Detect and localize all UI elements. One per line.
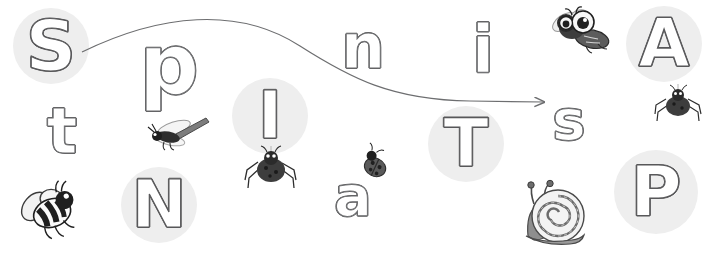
letter-i-capital: I: [232, 78, 308, 154]
bumblebee-icon: [16, 180, 82, 246]
letter-i-lower: i: [468, 18, 498, 82]
spider-small-icon: [654, 84, 706, 134]
letter-p-lower: p: [144, 20, 194, 110]
letter-s-lower: s: [548, 94, 590, 146]
fly-icon: [546, 6, 616, 56]
letter-t-lower: t: [44, 104, 80, 158]
letter-s-capital: S: [13, 8, 89, 84]
worksheet-canvas: S p n i A t I T s N a P: [0, 0, 711, 253]
dragonfly-icon: [146, 116, 210, 158]
spider-hanging-icon: [244, 146, 300, 202]
letter-n-capital: N: [121, 167, 197, 243]
letter-t-capital: T: [428, 106, 504, 182]
ladybug-icon: [358, 148, 392, 182]
letter-n-lower: n: [340, 16, 386, 78]
letter-a-capital: A: [626, 6, 702, 82]
snail-icon: [514, 180, 594, 248]
letter-p-capital: P: [614, 150, 698, 234]
